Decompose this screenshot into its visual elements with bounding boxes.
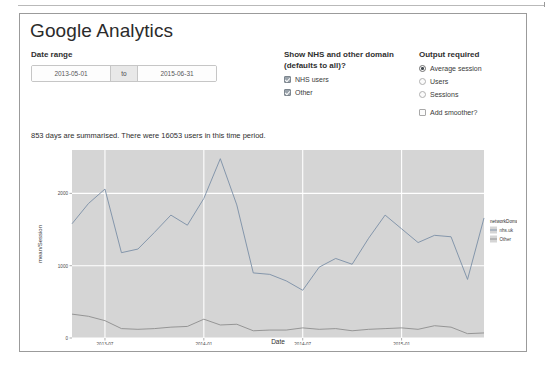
checkbox-label-nhs-users: NHS users: [295, 75, 329, 84]
radio-icon-sessions[interactable]: [419, 91, 426, 98]
radio-row-sessions[interactable]: Sessions: [419, 90, 529, 99]
radio-icon-users[interactable]: [419, 78, 426, 85]
x-tick-label: 2013-07: [97, 342, 114, 345]
browser-chrome-strip: [18, 2, 545, 6]
output-required-group: Output required Average session Users Se…: [419, 49, 529, 117]
checkbox-icon-nhs-users[interactable]: [284, 76, 291, 83]
chart-x-axis-ticks: 2013-072014-012014-072015-01: [97, 338, 411, 345]
x-tick-label: 2015-01: [393, 342, 410, 345]
page-title: Google Analytics: [30, 20, 173, 42]
chart-y-axis-ticks: 010002000: [58, 191, 72, 341]
checkbox-label-other: Other: [295, 88, 313, 97]
checkbox-icon-other[interactable]: [284, 89, 291, 96]
chart-x-axis-label: Date: [271, 338, 285, 345]
date-range-label: Date range: [31, 49, 231, 60]
checkbox-row-other[interactable]: Other: [284, 88, 419, 97]
end-date-input[interactable]: 2015-06-31: [138, 66, 216, 81]
radio-icon-average-session[interactable]: [419, 65, 426, 72]
y-tick-label: 1000: [58, 264, 69, 269]
checkbox-icon-add-smoother[interactable]: [419, 109, 426, 116]
radio-label-average-session: Average session: [430, 64, 482, 73]
domain-filter-label-line1: Show NHS and other domain: [284, 49, 419, 60]
chart-canvas: 010002000 2013-072014-012014-072015-01 m…: [31, 145, 517, 345]
radio-label-sessions: Sessions: [430, 90, 458, 99]
y-tick-label: 0: [65, 336, 68, 341]
radio-label-users: Users: [430, 77, 448, 86]
date-range-input-group[interactable]: 2013-05-01 to 2015-06-31: [31, 65, 217, 82]
analytics-chart: 010002000 2013-072014-012014-072015-01 m…: [31, 145, 517, 345]
checkbox-label-add-smoother: Add smoother?: [430, 108, 477, 117]
x-tick-label: 2014-01: [195, 342, 212, 345]
start-date-input[interactable]: 2013-05-01: [32, 66, 110, 81]
y-tick-label: 2000: [58, 191, 69, 196]
x-tick-label: 2014-07: [294, 342, 311, 345]
app-panel: Google Analytics Date range 2013-05-01 t…: [19, 13, 527, 352]
domain-filter-group: Show NHS and other domain (defaults to a…: [284, 49, 419, 97]
domain-filter-label-line2: (defaults to all)?: [284, 60, 419, 71]
screenshot-root: Google Analytics Date range 2013-05-01 t…: [0, 0, 545, 366]
summary-text: 853 days are summarised. There were 1605…: [31, 131, 266, 140]
checkbox-row-nhs-users[interactable]: NHS users: [284, 75, 419, 84]
legend-title: networkDomain: [490, 219, 517, 224]
date-range-group: Date range 2013-05-01 to 2015-06-31: [31, 49, 231, 82]
legend-entry-label: Other: [500, 237, 512, 242]
chart-panel-background: [72, 150, 484, 338]
radio-row-users[interactable]: Users: [419, 77, 529, 86]
checkbox-row-add-smoother[interactable]: Add smoother?: [419, 108, 529, 117]
output-required-label: Output required: [419, 49, 529, 60]
radio-row-average-session[interactable]: Average session: [419, 64, 529, 73]
legend-entry-label: nhs.uk: [500, 228, 514, 233]
chart-legend: networkDomain nhs.ukOther: [490, 219, 517, 243]
chart-y-axis-label: mean/Session: [37, 225, 43, 263]
date-range-separator: to: [110, 66, 138, 81]
